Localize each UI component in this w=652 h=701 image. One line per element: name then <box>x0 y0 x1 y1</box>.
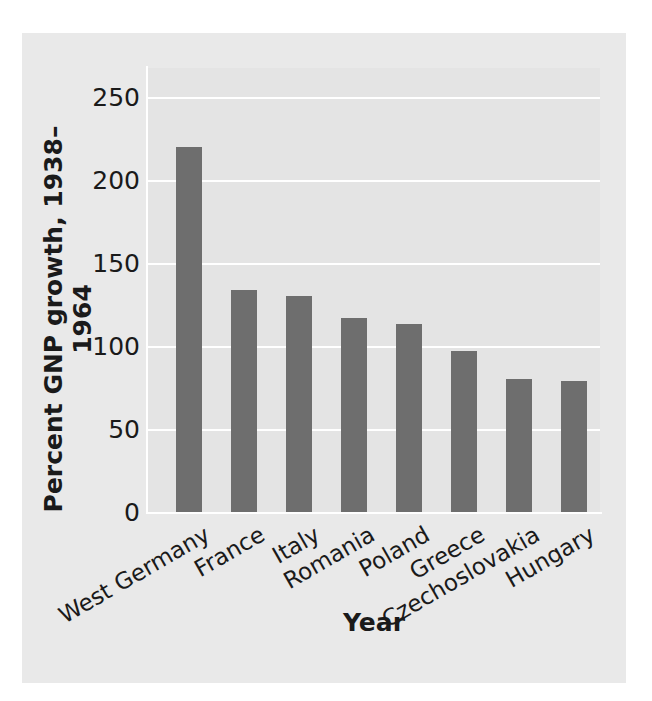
y-tick-label: 200 <box>92 166 140 195</box>
x-axis-title: Year <box>148 608 600 637</box>
bar <box>286 296 312 512</box>
y-tick-label: 150 <box>92 249 140 278</box>
x-axis-spine <box>146 512 602 514</box>
bar <box>451 351 477 512</box>
bars-group <box>148 68 600 512</box>
bar <box>176 147 202 512</box>
chart-figure: 050100150200250 West GermanyFranceItalyR… <box>0 0 652 701</box>
bar <box>396 324 422 512</box>
bar <box>341 318 367 512</box>
y-axis-title: Percent GNP growth, 1938–1964 <box>39 94 97 544</box>
bar <box>506 379 532 512</box>
y-tick-label: 100 <box>92 332 140 361</box>
y-tick-label: 50 <box>108 415 140 444</box>
y-tick-label: 250 <box>92 83 140 112</box>
bar <box>561 381 587 512</box>
bar <box>231 290 257 512</box>
